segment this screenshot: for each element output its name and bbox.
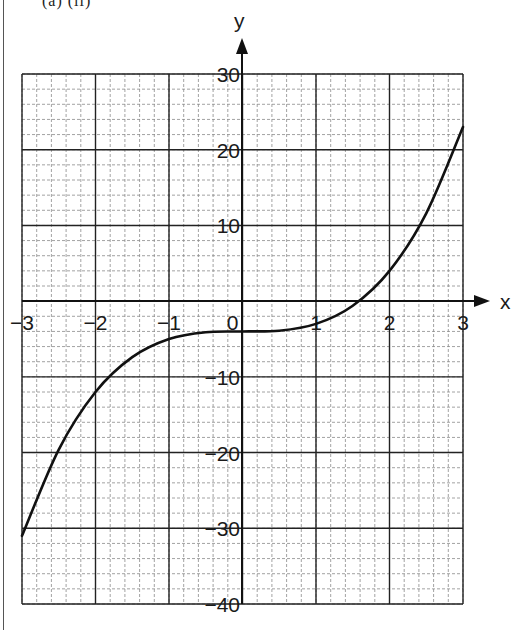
y-tick-label: −20 [204,442,240,465]
y-tick-label: −40 [204,593,240,616]
x-tick-label: 2 [384,311,396,334]
y-axis-arrow-icon [236,38,248,54]
y-tick-label: 20 [217,139,240,162]
cubic-graph: x y −3−2−10123 302010−10−20−30−40 [0,0,532,630]
x-tick-label: 3 [457,311,469,334]
x-tick-label: −2 [84,311,108,334]
y-tick-label: −30 [204,517,240,540]
y-axis-label: y [234,9,245,32]
x-axis-arrow-icon [474,295,490,307]
x-tick-label: −3 [10,311,34,334]
x-tick-label: −1 [157,311,181,334]
y-tick-label: −10 [204,366,240,389]
y-tick-labels: 302010−10−20−30−40 [204,63,240,616]
y-tick-label: 30 [217,63,240,86]
y-tick-label: 10 [217,214,240,237]
x-axis-label: x [500,290,511,313]
